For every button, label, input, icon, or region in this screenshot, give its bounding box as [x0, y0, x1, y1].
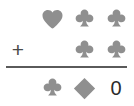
plus-sign-icon: +: [12, 39, 24, 60]
cell-row2-col2: [68, 38, 100, 62]
puzzle-row-sum: 0: [0, 72, 134, 104]
cell-row3-col1: [36, 76, 68, 100]
cell-row1-col1: [36, 7, 68, 31]
cell-row1-col2: [68, 7, 100, 31]
heart-icon: [40, 7, 65, 31]
club-icon: [73, 38, 96, 62]
cell-row2-col3: [100, 38, 132, 62]
diamond-icon: [72, 76, 97, 101]
result-value: 0: [110, 78, 121, 98]
club-icon: [105, 7, 128, 31]
cell-row3-col2: [68, 76, 100, 101]
sum-divider-line: [6, 66, 127, 68]
suit-addition-puzzle: +: [0, 0, 134, 106]
club-icon: [41, 76, 64, 100]
club-icon: [105, 38, 128, 62]
puzzle-row-first-addend: [0, 4, 134, 34]
cell-row1-col3: [100, 7, 132, 31]
puzzle-row-second-addend: +: [0, 35, 134, 64]
cell-row3-col3: 0: [100, 78, 132, 98]
club-icon: [73, 7, 96, 31]
operator-cell-row2: +: [0, 39, 36, 60]
